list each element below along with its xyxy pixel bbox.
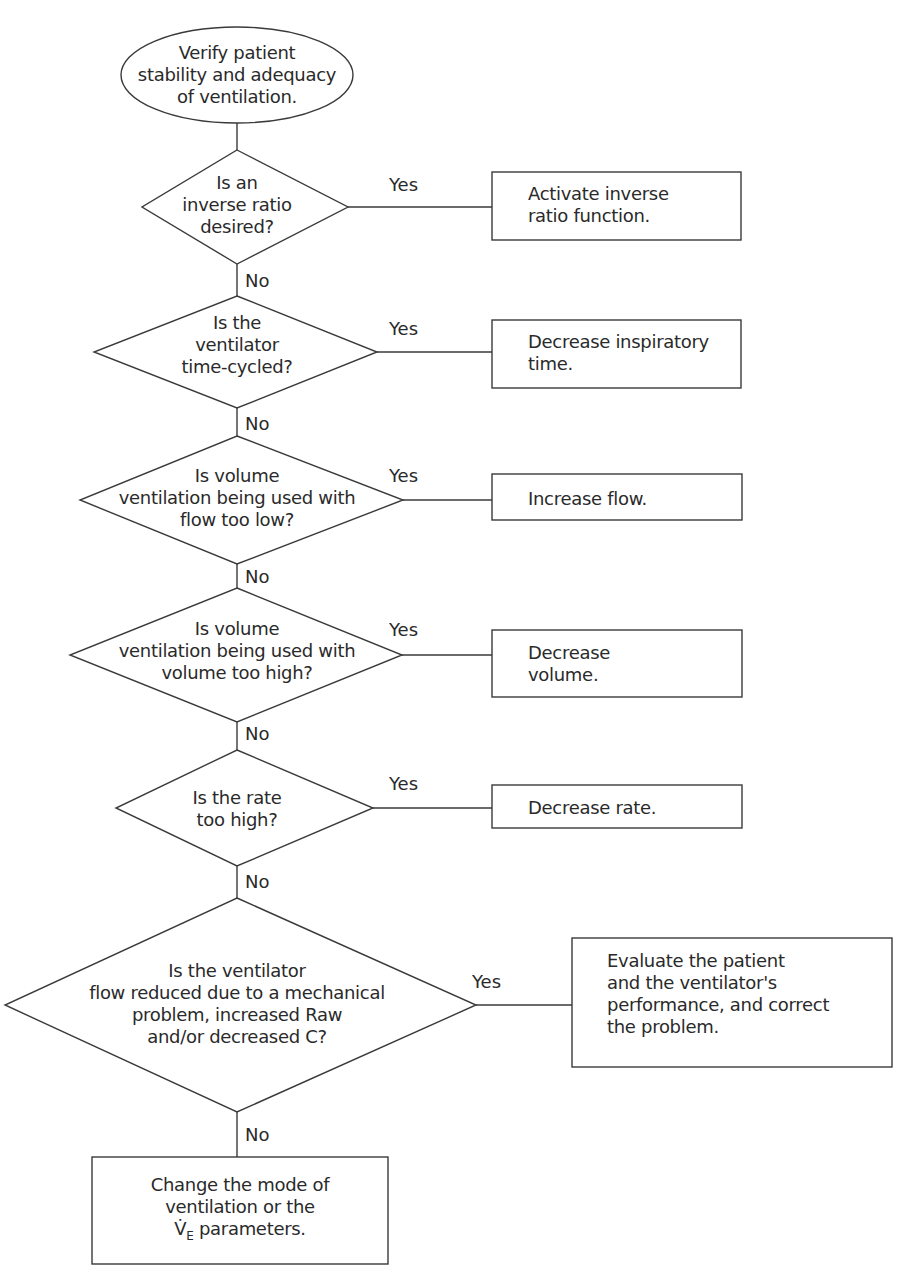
no-label-2: No [245, 413, 269, 435]
text-line: time. [528, 353, 709, 375]
action-2-text: Decrease inspiratory time. [528, 331, 709, 375]
text-line: and the ventilator's [607, 972, 829, 994]
no-label-6: No [245, 1124, 269, 1146]
yes-label-1: Yes [389, 174, 418, 196]
text-line: Decrease [528, 642, 610, 664]
action-4-text: Decrease volume. [528, 642, 610, 686]
text-line: problem, increased Raw [67, 1004, 407, 1026]
text-line: Is the ventilator [67, 960, 407, 982]
no-label-3: No [245, 566, 269, 588]
start-oval-text: Verify patient stability and adequacy of… [127, 42, 347, 108]
action-5-text: Decrease rate. [528, 797, 656, 819]
text-line: ratio function. [528, 205, 669, 227]
decision-2-text: Is the ventilator time-cycled? [157, 312, 317, 378]
text-line: Change the mode of [92, 1174, 388, 1196]
no-label-5: No [245, 871, 269, 893]
text-line: Is volume [87, 465, 387, 487]
text-line: ventilation or the [92, 1196, 388, 1218]
text-line: Decrease rate. [528, 797, 656, 819]
text-line: ventilation being used with [87, 640, 387, 662]
text-line: Is the rate [167, 787, 307, 809]
decision-1-text: Is an inverse ratio desired? [157, 172, 317, 238]
yes-label-5: Yes [389, 773, 418, 795]
yes-label-6: Yes [472, 971, 501, 993]
subscript-e: E [186, 1229, 193, 1243]
text-line: Increase flow. [528, 488, 647, 510]
text-line: too high? [167, 809, 307, 831]
parameters-text: parameters. [194, 1218, 306, 1239]
text-line: Activate inverse [528, 183, 669, 205]
text-line: performance, and correct [607, 994, 829, 1016]
text-line: Evaluate the patient [607, 950, 829, 972]
yes-label-4: Yes [389, 619, 418, 641]
no-label-1: No [245, 270, 269, 292]
decision-4-text: Is volume ventilation being used with vo… [87, 618, 387, 684]
no-label-4: No [245, 723, 269, 745]
action-3-text: Increase flow. [528, 488, 647, 510]
decision-3-text: Is volume ventilation being used with fl… [87, 465, 387, 531]
text-line: Verify patient [127, 42, 347, 64]
text-line: flow too low? [87, 509, 387, 531]
action-1-text: Activate inverse ratio function. [528, 183, 669, 227]
yes-label-3: Yes [389, 465, 418, 487]
text-line: flow reduced due to a mechanical [67, 982, 407, 1004]
text-line: Is volume [87, 618, 387, 640]
text-line: inverse ratio [157, 194, 317, 216]
decision-6-text: Is the ventilator flow reduced due to a … [67, 960, 407, 1048]
text-line: the problem. [607, 1016, 829, 1038]
text-line: Is an [157, 172, 317, 194]
yes-label-2: Yes [389, 318, 418, 340]
text-line: volume. [528, 664, 610, 686]
text-line: stability and adequacy [127, 64, 347, 86]
decision-5-text: Is the rate too high? [167, 787, 307, 831]
text-line: V̇E parameters. [92, 1218, 388, 1247]
text-line: time-cycled? [157, 356, 317, 378]
text-line: of ventilation. [127, 86, 347, 108]
end-box-text: Change the mode of ventilation or the V̇… [92, 1174, 388, 1247]
text-line: Decrease inspiratory [528, 331, 709, 353]
action-6-text: Evaluate the patient and the ventilator'… [607, 950, 829, 1038]
text-line: and/or decreased C? [67, 1026, 407, 1048]
text-line: Is the [157, 312, 317, 334]
v-dot-symbol: V̇ [174, 1218, 186, 1239]
text-line: volume too high? [87, 662, 387, 684]
text-line: desired? [157, 216, 317, 238]
text-line: ventilator [157, 334, 317, 356]
text-line: ventilation being used with [87, 487, 387, 509]
